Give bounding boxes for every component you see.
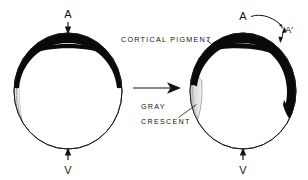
gray-crescent-label-line2: CRESCENT xyxy=(141,117,191,126)
left-animal-pole-label: A xyxy=(64,8,72,20)
right-vegetal-pole-label: V xyxy=(239,164,247,176)
gray-crescent-label-line1: GRAY xyxy=(141,102,166,111)
left-vegetal-pole-label: V xyxy=(64,164,72,176)
right-animal-pole-prime-label: A′ xyxy=(285,24,293,35)
cortical-pigment-label: CORTICAL PIGMENT xyxy=(121,35,212,44)
diagram-canvas: A V xyxy=(0,0,308,180)
cortical-rotation-figure: A V xyxy=(0,0,308,180)
right-animal-pole-label: A xyxy=(239,10,247,22)
